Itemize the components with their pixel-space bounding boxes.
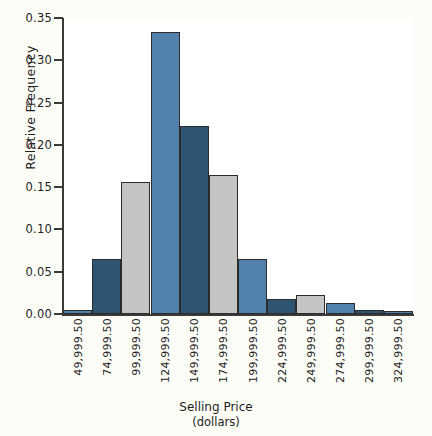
histogram-bar [384,311,413,314]
histogram-bar [326,303,355,314]
y-axis-tick [54,17,63,19]
y-axis-tick [54,271,63,273]
y-axis-title: Relative Frequency [23,18,38,198]
y-axis-tick [54,59,63,61]
x-axis-tick-label: 249,999.50 [305,318,318,383]
x-axis-tick-label: 174,999.50 [217,318,230,383]
x-axis-tick-label: 324,999.50 [392,318,405,383]
x-axis-title-main: Selling Price [179,400,252,414]
histogram-bar [63,310,92,314]
histogram-bar [267,299,296,314]
x-axis-title-sub: (dollars) [0,415,432,429]
x-axis-tick-label: 99,999.50 [130,318,143,376]
x-axis-tick-label: 149,999.50 [188,318,201,383]
histogram-bar [238,259,267,314]
x-axis-tick-label: 199,999.50 [247,318,260,383]
y-axis-tick [54,313,63,315]
y-axis-tick-label: 0.05 [6,265,52,279]
y-axis-tick [54,186,63,188]
histogram-bar [92,259,121,314]
x-axis-tick-label: 274,999.50 [334,318,347,383]
histogram-bar [151,32,180,314]
histogram-bar [180,126,209,314]
x-axis-line [62,314,414,316]
histogram-bar [296,295,325,314]
y-axis-tick-label: 0.10 [6,222,52,236]
y-axis-tick [54,144,63,146]
histogram-bar [209,175,238,314]
y-axis-tick-label: 0.00 [6,307,52,321]
x-axis-tick-label: 224,999.50 [276,318,289,383]
histogram-bar [355,310,384,314]
y-axis-tick [54,228,63,230]
histogram-bar [121,182,150,314]
histogram-chart: 0.000.050.100.150.200.250.300.35 Relativ… [0,0,432,436]
x-axis-title: Selling Price (dollars) [0,400,432,429]
x-axis-tick-label: 299,999.50 [363,318,376,383]
y-axis-tick [54,102,63,104]
bar-series [63,18,413,314]
x-axis-tick-label: 49,999.50 [72,318,85,376]
x-axis-tick-label: 124,999.50 [159,318,172,383]
x-axis-tick-label: 74,999.50 [101,318,114,376]
x-axis-tick-labels: 49,999.5074,999.5099,999.50124,999.50149… [63,318,413,398]
